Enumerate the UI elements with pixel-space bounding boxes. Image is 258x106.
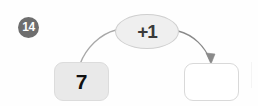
output-answer-box[interactable] [184,63,239,101]
operation-bubble: +1 [115,14,179,49]
page-edge-artifact [251,62,252,88]
worksheet-problem: 14 +1 7 [0,0,258,106]
operation-label: +1 [116,15,178,48]
operation-to-output-arrow [178,31,210,60]
input-number-box: 7 [54,62,109,101]
input-to-operation-arrow [80,30,116,64]
